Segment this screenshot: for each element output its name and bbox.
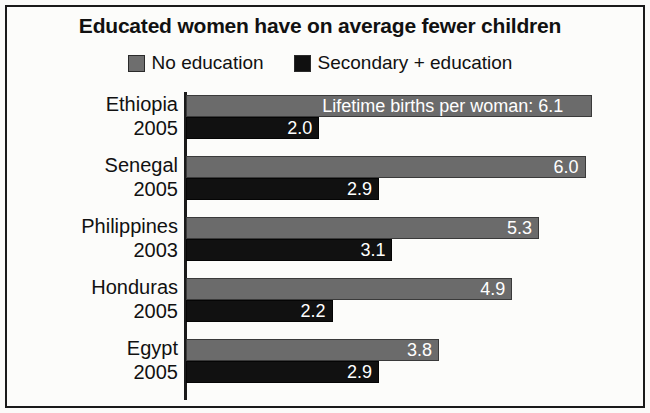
legend-entry-no-education: No education [128, 52, 264, 74]
year-label: 2005 [0, 177, 178, 201]
bar-value-label: 2.9 [347, 179, 372, 200]
chart-legend: No education Secondary + education [14, 52, 626, 74]
bar-value-label: 2.2 [300, 301, 325, 322]
chart-row: Egypt 2005 3.8 2.9 [0, 336, 650, 397]
country-label: Senegal [0, 153, 178, 177]
row-axis-label: Ethiopia 2005 [0, 92, 178, 140]
bar-secondary-education: 2.2 [186, 300, 333, 322]
bar-no-education: Lifetime births per woman: 6.1 [186, 95, 592, 117]
bar-annotation: Lifetime births per woman: 6.1 [322, 96, 563, 117]
bar-no-education: 3.8 [186, 339, 439, 361]
bar-secondary-education: 2.0 [186, 117, 319, 139]
bar-value-label: 2.0 [287, 118, 312, 139]
legend-label-no-education: No education [152, 52, 264, 74]
chart-row: Philippines 2003 5.3 3.1 [0, 214, 650, 275]
bar-value-label: 2.9 [347, 362, 372, 383]
bar-no-education: 5.3 [186, 217, 539, 239]
chart-figure: Educated women have on average fewer chi… [0, 0, 650, 413]
year-label: 2005 [0, 360, 178, 384]
plot-area: Ethiopia 2005 Lifetime births per woman:… [0, 88, 650, 403]
country-label: Honduras [0, 275, 178, 299]
bar-value-label: 6.0 [554, 157, 579, 178]
page-title: Educated women have on average fewer chi… [14, 14, 626, 38]
bar-secondary-education: 2.9 [186, 361, 379, 383]
legend-label-secondary-education: Secondary + education [318, 52, 513, 74]
bar-no-education: 6.0 [186, 156, 586, 178]
gray-swatch-icon [128, 55, 145, 72]
row-axis-label: Egypt 2005 [0, 336, 178, 384]
bar-value-label: 4.9 [480, 279, 505, 300]
chart-row: Senegal 2005 6.0 2.9 [0, 153, 650, 214]
bar-value-label: 3.1 [360, 240, 385, 261]
year-label: 2005 [0, 116, 178, 140]
bar-secondary-education: 3.1 [186, 239, 392, 261]
bar-value-label: 3.8 [407, 340, 432, 361]
country-label: Philippines [0, 214, 178, 238]
black-swatch-icon [294, 55, 311, 72]
bar-no-education: 4.9 [186, 278, 512, 300]
country-label: Ethiopia [0, 92, 178, 116]
legend-entry-secondary-education: Secondary + education [294, 52, 513, 74]
country-label: Egypt [0, 336, 178, 360]
chart-row: Honduras 2005 4.9 2.2 [0, 275, 650, 336]
bar-value-label: 5.3 [507, 218, 532, 239]
year-label: 2003 [0, 238, 178, 262]
bar-secondary-education: 2.9 [186, 178, 379, 200]
row-axis-label: Honduras 2005 [0, 275, 178, 323]
year-label: 2005 [0, 299, 178, 323]
row-axis-label: Senegal 2005 [0, 153, 178, 201]
row-axis-label: Philippines 2003 [0, 214, 178, 262]
chart-row: Ethiopia 2005 Lifetime births per woman:… [0, 92, 650, 153]
